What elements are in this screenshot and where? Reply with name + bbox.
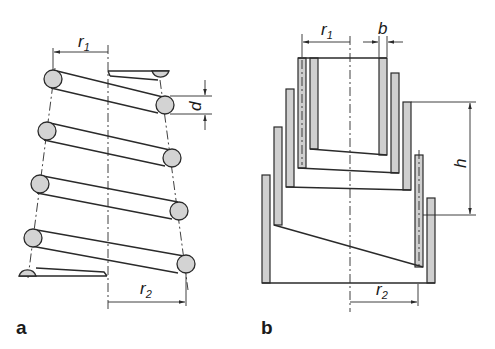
bottom-ground-end xyxy=(19,268,107,276)
wire-section xyxy=(31,175,49,193)
wire-section xyxy=(44,70,62,88)
svg-text:d: d xyxy=(186,101,205,111)
svg-text:r1: r1 xyxy=(78,32,90,53)
strip-walls-left xyxy=(262,58,318,283)
svg-text:r1: r1 xyxy=(321,20,333,41)
dimension-r2-b: r2 xyxy=(350,280,418,306)
svg-text:h: h xyxy=(451,159,470,168)
spring-diagram: r1 d r2 a xyxy=(0,0,495,349)
svg-text:b: b xyxy=(378,19,387,38)
panel-label-b: b xyxy=(261,317,273,338)
conical-spring-panel-a: r1 d r2 a xyxy=(16,32,212,338)
dimension-r2-a: r2 xyxy=(108,274,186,306)
dimension-d: d xyxy=(170,80,212,130)
wire-section xyxy=(38,122,56,140)
volute-spring-panel-b: r1 b h r2 b xyxy=(261,19,476,338)
dimension-r1-b: r1 xyxy=(302,20,350,57)
svg-text:r2: r2 xyxy=(140,279,152,300)
dimension-r1-a: r1 xyxy=(53,32,108,70)
wire-section xyxy=(24,229,42,247)
wire-section xyxy=(163,149,181,167)
dimension-b: b xyxy=(363,19,403,57)
wire-section xyxy=(156,96,174,114)
turn-bottom-edges xyxy=(274,149,423,267)
panel-label-a: a xyxy=(16,317,27,338)
wire-section xyxy=(170,202,188,220)
top-ground-end xyxy=(108,71,169,80)
wire-section xyxy=(177,255,195,273)
strip-walls-right xyxy=(379,58,435,283)
